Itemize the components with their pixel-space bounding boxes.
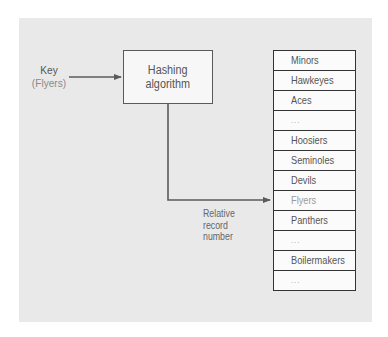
record-row: Minors	[274, 51, 355, 71]
record-row: Devils	[274, 171, 355, 191]
hashing-algorithm-box: Hashing algorithm	[123, 50, 213, 104]
record-label: ...	[291, 231, 300, 250]
relative-record-number-label: Relative record number	[203, 208, 235, 243]
record-label: Devils	[291, 171, 316, 190]
record-label: Hoosiers	[291, 131, 327, 150]
record-label: Aces	[291, 91, 312, 110]
record-label: ...	[291, 111, 300, 130]
record-list: Minors Hawkeyes Aces ... Hoosiers Semino…	[273, 50, 356, 291]
hash-box-line2: algorithm	[146, 77, 190, 91]
record-label: Hawkeyes	[291, 71, 334, 90]
record-label: ...	[291, 271, 300, 290]
record-row-ellipsis: ...	[274, 231, 355, 251]
record-row: Seminoles	[274, 151, 355, 171]
hash-box-line1: Hashing	[146, 63, 190, 77]
record-row-target: Flyers	[274, 191, 355, 211]
record-row-ellipsis: ...	[274, 111, 355, 131]
record-row: Panthers	[274, 211, 355, 231]
record-label: Seminoles	[291, 151, 334, 170]
record-label: Boilermakers	[291, 251, 345, 270]
rel-label-line1: Relative	[203, 208, 235, 220]
record-label: Flyers	[291, 191, 316, 210]
record-row: Hoosiers	[274, 131, 355, 151]
hash-to-record-arrow	[168, 103, 270, 200]
record-row: Hawkeyes	[274, 71, 355, 91]
record-row-ellipsis: ...	[274, 271, 355, 290]
rel-label-line2: record	[203, 220, 235, 232]
record-row: Boilermakers	[274, 251, 355, 271]
record-label: Panthers	[291, 211, 328, 230]
record-label: Minors	[291, 51, 319, 70]
rel-label-line3: number	[203, 231, 235, 243]
record-row: Aces	[274, 91, 355, 111]
